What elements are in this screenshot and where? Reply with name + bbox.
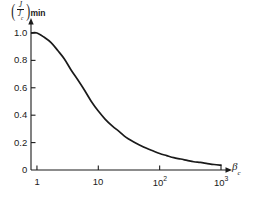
x-tick-label-mantissa: 10	[153, 177, 164, 188]
x-tick-label-mantissa: 1	[34, 176, 39, 187]
x-tick-label-exponent: 3	[225, 175, 229, 182]
y-axis-arrowhead	[28, 18, 33, 25]
data-series-group	[32, 33, 221, 166]
x-tick-label: 103	[214, 176, 228, 188]
x-tick-label-mantissa: 10	[93, 176, 104, 187]
y-tick-label: 0.4	[14, 109, 27, 120]
x-tick-label-exponent: 2	[163, 175, 167, 182]
y-tick-label: 0.6	[14, 82, 27, 93]
x-tick-label-mantissa: 10	[214, 177, 225, 188]
x-tick-label: 102	[153, 176, 167, 188]
plot-area	[0, 0, 253, 199]
figure-container: ( J Jc ) min βc 110102103 00.20.40.60.81…	[0, 0, 253, 199]
y-tick-label: 0.2	[14, 137, 27, 148]
y-tick-label: 0	[22, 164, 27, 175]
x-tick-label: 10	[93, 176, 104, 187]
x-axis-tick-marks	[37, 166, 221, 171]
data-curve	[32, 33, 221, 166]
y-tick-label: 1.0	[14, 27, 27, 38]
x-tick-label: 1	[34, 176, 39, 187]
y-axis-tick-marks	[31, 33, 36, 143]
x-axis-arrowhead	[226, 167, 233, 172]
axes-group	[28, 18, 232, 173]
y-tick-label: 0.8	[14, 54, 27, 65]
